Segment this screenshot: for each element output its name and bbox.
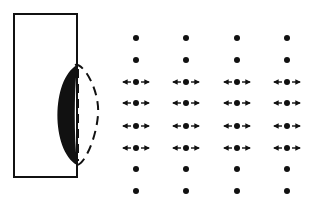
grid-dot [133, 57, 139, 63]
grid-dot [133, 123, 139, 129]
grid-dot [133, 188, 139, 194]
grid-dot [133, 35, 139, 41]
grid-dot [284, 145, 290, 151]
grid-dot [183, 79, 189, 85]
grid-dot [284, 35, 290, 41]
grid-dot [234, 166, 240, 172]
grid-dot [284, 57, 290, 63]
grid-dot [133, 100, 139, 106]
dot-grid [123, 35, 300, 194]
grid-dot [183, 100, 189, 106]
grid-dot [183, 145, 189, 151]
filled-crescent [58, 65, 78, 165]
grid-dot [133, 79, 139, 85]
grid-dot [234, 35, 240, 41]
grid-dot [183, 57, 189, 63]
grid-dot [284, 100, 290, 106]
grid-dot [284, 188, 290, 194]
grid-dot [133, 145, 139, 151]
grid-dot [234, 57, 240, 63]
grid-dot [234, 123, 240, 129]
grid-dot [183, 35, 189, 41]
grid-dot [234, 79, 240, 85]
grid-dot [133, 166, 139, 172]
grid-dot [183, 188, 189, 194]
grid-dot [183, 123, 189, 129]
grid-dot [284, 79, 290, 85]
grid-dot [284, 123, 290, 129]
grid-dot [234, 188, 240, 194]
grid-dot [234, 145, 240, 151]
grid-dot [183, 166, 189, 172]
grid-dot [284, 166, 290, 172]
diagram-canvas [0, 0, 313, 203]
grid-dot [234, 100, 240, 106]
